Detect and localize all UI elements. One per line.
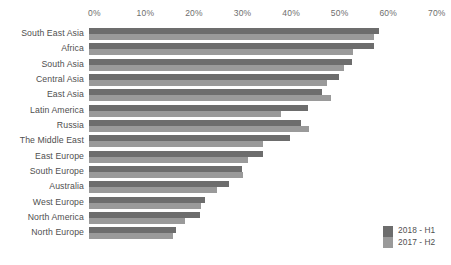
x-tick-label: 20% <box>185 8 203 18</box>
bar-2017-h2 <box>89 34 374 40</box>
bar-2017-h2 <box>89 65 344 71</box>
category-label: South East Asia <box>0 28 84 38</box>
x-tick-label: 10% <box>137 8 155 18</box>
legend-swatch-2018-h1 <box>383 226 393 237</box>
category-label: North America <box>0 212 84 222</box>
category-label: Central Asia <box>0 74 84 84</box>
category-label: Latin America <box>0 105 84 115</box>
bar-2017-h2 <box>89 49 353 55</box>
x-tick-label: 50% <box>331 8 349 18</box>
bar-2017-h2 <box>89 187 217 193</box>
category-label: Russia <box>0 120 84 130</box>
bar-2017-h2 <box>89 80 327 86</box>
bar-2017-h2 <box>89 111 281 117</box>
bar-2017-h2 <box>89 172 243 178</box>
category-label: East Europe <box>0 151 84 161</box>
x-tick-label: 40% <box>282 8 300 18</box>
chart-row: The Middle East <box>0 134 451 149</box>
category-label: West Europe <box>0 197 84 207</box>
chart-row: East Asia <box>0 88 451 103</box>
bar-2017-h2 <box>89 233 173 239</box>
category-label: South Asia <box>0 59 84 69</box>
chart-row: Africa <box>0 42 451 57</box>
bar-chart: 0%10%20%30%40%50%60%70% South East AsiaA… <box>0 0 451 265</box>
legend-swatches <box>383 226 393 248</box>
category-label: The Middle East <box>0 135 84 145</box>
chart-row: Central Asia <box>0 73 451 88</box>
chart-row: Latin America <box>0 104 451 119</box>
category-label: East Asia <box>0 89 84 99</box>
bar-2017-h2 <box>89 218 185 224</box>
x-tick-label: 60% <box>379 8 397 18</box>
legend-labels: 2018 - H1 2017 - H2 <box>398 225 435 248</box>
category-label: Africa <box>0 43 84 53</box>
x-tick-label: 30% <box>234 8 252 18</box>
bar-2017-h2 <box>89 95 331 101</box>
bar-2017-h2 <box>89 141 263 147</box>
legend-label-2018-h1: 2018 - H1 <box>398 225 435 237</box>
legend-label-2017-h2: 2017 - H2 <box>398 237 435 249</box>
bar-2017-h2 <box>89 203 201 209</box>
category-label: Australia <box>0 181 84 191</box>
plot-area: South East AsiaAfricaSouth AsiaCentral A… <box>0 27 451 242</box>
legend-swatch-2017-h2 <box>383 237 393 248</box>
chart-row: East Europe <box>0 150 451 165</box>
chart-row: West Europe <box>0 196 451 211</box>
chart-legend: 2018 - H1 2017 - H2 <box>383 225 451 251</box>
chart-row: Australia <box>0 180 451 195</box>
chart-row: South Asia <box>0 58 451 73</box>
category-label: South Europe <box>0 166 84 176</box>
bar-2017-h2 <box>89 157 248 163</box>
chart-row: Russia <box>0 119 451 134</box>
chart-row: South East Asia <box>0 27 451 42</box>
x-tick-label: 70% <box>428 8 446 18</box>
x-axis: 0%10%20%30%40%50%60%70% <box>89 8 429 22</box>
category-label: North Europe <box>0 227 84 237</box>
x-tick-label: 0% <box>88 8 101 18</box>
bar-2017-h2 <box>89 126 309 132</box>
chart-row: South Europe <box>0 165 451 180</box>
